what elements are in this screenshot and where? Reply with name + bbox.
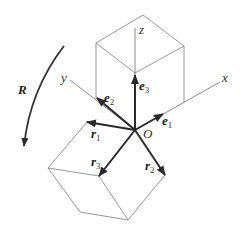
r2-label: r2: [145, 158, 155, 175]
rotation-label: R: [17, 82, 27, 97]
x-axis-label: x: [221, 70, 228, 85]
rotation-arc: [24, 46, 64, 146]
coordinate-axes: [70, 28, 220, 130]
e1-label: e1: [162, 113, 172, 130]
z-axis-label: z: [138, 22, 144, 37]
e3-label: e3: [139, 78, 150, 95]
r3-vector: [99, 130, 135, 176]
rotation-diagram: R z x y O e1 e2 e3 r1 r2 r3: [0, 0, 244, 228]
r1-label: r1: [91, 126, 101, 143]
e2-label: e2: [104, 90, 114, 107]
y-axis-label: y: [59, 70, 67, 85]
r3-label: r3: [91, 154, 101, 171]
origin-label: O: [143, 126, 153, 141]
